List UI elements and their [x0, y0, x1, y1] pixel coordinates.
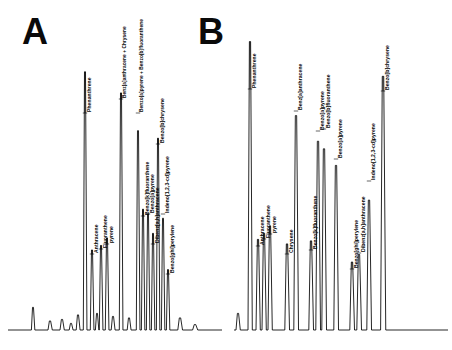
peak-label: Benzo[a]pyrene + Benzo[b]fluoranthene: [140, 19, 145, 112]
peak-label: Benz[a]anthracene: [298, 64, 303, 110]
peak-label: Benzo[ghi]perylene: [170, 225, 175, 273]
peak-label: Benzo[k]fluoranthene: [313, 196, 318, 249]
trace-path: [8, 72, 222, 330]
peak-label: Indeno[1,2,3-cd]pyrene: [371, 123, 376, 180]
panel-letter-b: B: [198, 14, 223, 50]
chromatogram-figure: A PhenanthreneAnthraceneFluoranthenepyre…: [0, 0, 452, 350]
peak-label: Benzo[b]chrysene: [385, 45, 390, 90]
peak-label: Chrysene: [289, 229, 294, 253]
chromatogram-panel-b: B PhenanthreneAnthraceneFluoranthenepyre…: [226, 0, 452, 350]
chromatogram-panel-a: A PhenanthreneAnthraceneFluoranthenepyre…: [0, 0, 226, 350]
peak-label: Benzo[b]chrysene: [160, 98, 165, 143]
peak-label: Indeno[1,2,3-cd]pyrene: [165, 156, 170, 213]
peak-label: Phenanthrene: [87, 77, 92, 112]
chromatogram-trace-a: [0, 0, 226, 350]
peak-label: Benzo[b]fluoranthene: [326, 74, 331, 128]
peak-label: Dibenz[a,h]anthracene: [155, 187, 160, 243]
peak-label: Anthracene: [94, 224, 99, 253]
peak-label: Benzo[ghi]perylene: [354, 220, 359, 268]
peak-label: Benz[a]anthracene + Chrysene: [123, 26, 128, 98]
peak-label: Dibenz[a,h]anthracene: [361, 196, 366, 252]
peak-label: pyrene: [272, 216, 277, 233]
peak-label: Benzo[a]pyrene: [338, 119, 343, 158]
peak-label: pyrene: [109, 226, 114, 243]
peak-label: Phenanthrene: [252, 53, 257, 88]
trace-path: [234, 42, 448, 330]
chromatogram-trace-b: [226, 0, 452, 350]
